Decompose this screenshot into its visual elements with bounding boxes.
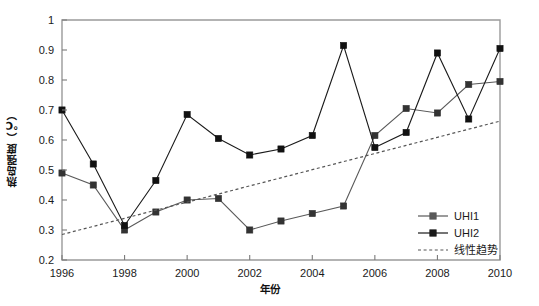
x-tick-label: 2010 <box>488 267 512 279</box>
data-point-UHI1-2005 <box>340 203 346 209</box>
y-tick-label: 0.4 <box>39 194 54 206</box>
data-point-UHI2-2009 <box>466 116 472 122</box>
legend-label-UHI1: UHI1 <box>454 210 479 222</box>
legend-label-线性趋势: 线性趋势 <box>454 243 498 256</box>
data-point-UHI1-2001 <box>215 195 221 201</box>
data-point-UHI2-2002 <box>247 152 253 158</box>
data-point-UHI1-2004 <box>309 210 315 216</box>
y-tick-label: 0.3 <box>39 224 54 236</box>
legend-label-UHI2: UHI2 <box>454 227 479 239</box>
x-tick-label: 2008 <box>425 267 449 279</box>
data-point-UHI1-1997 <box>90 182 96 188</box>
data-point-UHI1-2002 <box>247 227 253 233</box>
x-tick-label: 2004 <box>300 267 324 279</box>
x-tick-label: 1998 <box>112 267 136 279</box>
series-line-UHI1 <box>62 82 500 231</box>
y-tick-label: 0.7 <box>39 104 54 116</box>
data-point-UHI1-2006 <box>372 132 378 138</box>
x-tick-label: 2006 <box>363 267 387 279</box>
data-point-UHI2-2000 <box>184 111 190 117</box>
y-tick-label: 0.5 <box>39 164 54 176</box>
legend-swatch-marker-UHI2 <box>430 230 436 236</box>
data-point-UHI2-2004 <box>309 132 315 138</box>
x-tick-label: 2002 <box>237 267 261 279</box>
series-line-UHI2 <box>62 46 500 226</box>
data-point-UHI2-1999 <box>153 177 159 183</box>
data-point-UHI1-2008 <box>434 110 440 116</box>
data-point-UHI2-2001 <box>215 135 221 141</box>
chart-svg: 0.20.30.40.50.60.70.80.91199619982000200… <box>0 0 539 306</box>
data-point-UHI2-2008 <box>434 50 440 56</box>
x-tick-label: 2000 <box>175 267 199 279</box>
data-point-UHI2-2010 <box>497 45 503 51</box>
data-point-UHI2-2005 <box>340 42 346 48</box>
data-point-UHI1-2009 <box>466 81 472 87</box>
y-tick-label: 0.9 <box>39 44 54 56</box>
data-point-UHI2-2007 <box>403 129 409 135</box>
data-point-UHI1-2007 <box>403 105 409 111</box>
data-point-UHI1-2003 <box>278 218 284 224</box>
data-point-UHI2-2003 <box>278 146 284 152</box>
data-point-UHI1-1996 <box>59 170 65 176</box>
data-point-UHI2-1997 <box>90 161 96 167</box>
y-axis-title-container: 热岛强度（℃） <box>2 88 20 208</box>
y-axis-title: 热岛强度（℃） <box>4 109 19 187</box>
data-point-UHI1-2010 <box>497 78 503 84</box>
data-series-group <box>59 42 503 234</box>
legend: UHI1UHI2线性趋势 <box>418 210 498 256</box>
y-tick-label: 1 <box>48 14 54 26</box>
y-tick-label: 0.2 <box>39 254 54 266</box>
x-axis-title: 年份 <box>0 281 539 296</box>
data-point-UHI2-1998 <box>121 222 127 228</box>
tick-labels-group: 0.20.30.40.50.60.70.80.91199619982000200… <box>39 14 513 279</box>
chart-figure: 0.20.30.40.50.60.70.80.91199619982000200… <box>0 0 539 306</box>
data-point-UHI2-2006 <box>372 144 378 150</box>
y-tick-label: 0.8 <box>39 74 54 86</box>
y-tick-label: 0.6 <box>39 134 54 146</box>
x-tick-label: 1996 <box>50 267 74 279</box>
legend-swatch-marker-UHI1 <box>430 213 436 219</box>
